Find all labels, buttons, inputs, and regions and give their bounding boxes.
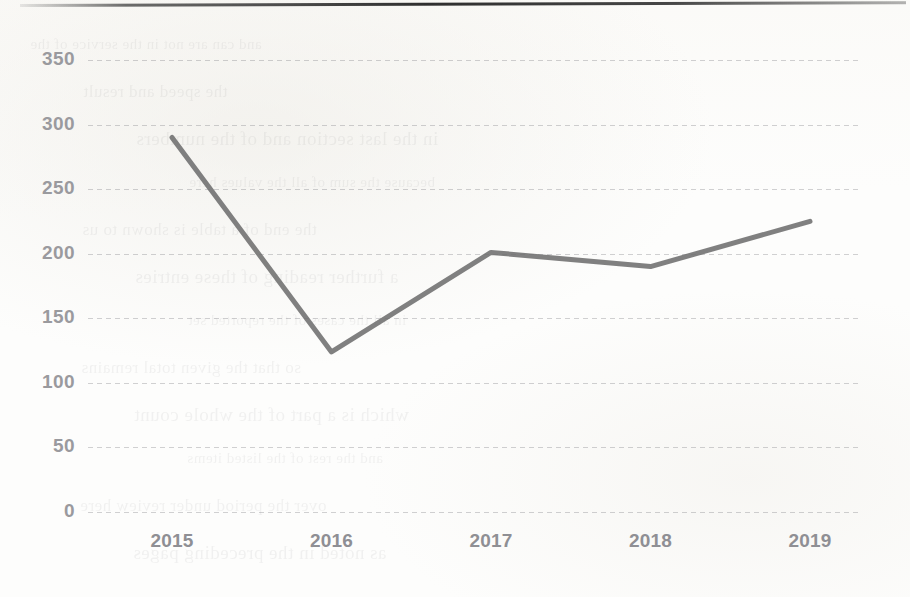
series-plot-area xyxy=(0,0,910,597)
data-series-line xyxy=(172,138,810,352)
chart-page: and can are not in the service of thethe… xyxy=(0,0,910,597)
line-chart: 050100150200250300350 201520162017201820… xyxy=(0,0,910,597)
